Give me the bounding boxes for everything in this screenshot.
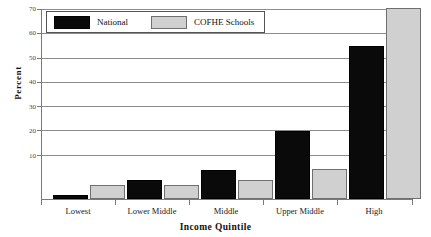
bar-national-middle	[201, 170, 236, 200]
bar-group-middle	[199, 8, 263, 199]
bar-group-lower-middle	[125, 8, 189, 199]
bar-cofhe-lower-middle	[164, 185, 199, 199]
legend-swatch-national-icon	[54, 16, 90, 29]
bar-cofhe-middle	[238, 180, 273, 199]
legend-entry-cofhe-schools: COFHE Schools	[151, 15, 254, 29]
y-tick-label-20: 20	[16, 128, 36, 135]
x-axis-title: Income Quintile	[0, 222, 431, 232]
x-tick-0	[41, 200, 42, 205]
legend-label-cofhe-schools: COFHE Schools	[194, 17, 254, 27]
x-tick-4	[337, 200, 338, 205]
bar-national-lower-middle	[127, 180, 162, 199]
bar-cofhe-high	[386, 8, 421, 199]
y-tick-label-10: 10	[16, 153, 36, 160]
y-tick-label-50: 50	[16, 55, 36, 62]
x-tick-1	[115, 200, 116, 205]
bar-group-high	[347, 8, 411, 199]
x-axis-label-high: High	[329, 206, 419, 216]
bar-cofhe-upper-middle	[312, 169, 347, 199]
legend-label-national: National	[97, 17, 128, 27]
bar-chart: Percent 70 60 50 40 30 20 10	[0, 0, 431, 237]
chart-legend: National COFHE Schools	[46, 11, 265, 33]
x-tick-5	[412, 200, 413, 205]
y-tick-label-40: 40	[16, 79, 36, 86]
bar-national-high	[349, 46, 384, 199]
y-tick-label-70: 70	[16, 6, 36, 13]
y-tick-label-60: 60	[16, 30, 36, 37]
legend-swatch-cofhe-icon	[151, 16, 187, 29]
bar-national-upper-middle	[275, 131, 310, 199]
plot-area	[41, 9, 413, 200]
bar-cofhe-lowest	[90, 185, 125, 199]
bar-national-lowest	[53, 195, 88, 199]
x-tick-3	[263, 200, 264, 205]
bar-group-lowest	[51, 8, 115, 199]
bar-group-upper-middle	[273, 8, 337, 199]
y-tick-label-30: 30	[16, 104, 36, 111]
x-tick-2	[189, 200, 190, 205]
legend-entry-national: National	[54, 15, 128, 29]
